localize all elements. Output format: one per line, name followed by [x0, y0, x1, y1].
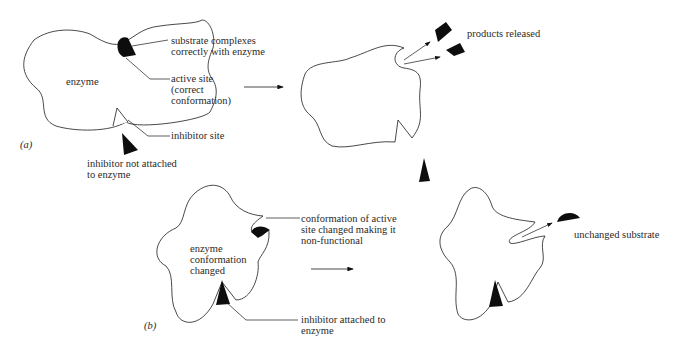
product-1	[435, 22, 452, 42]
callout-active-site-changed: conformation of active site changed maki…	[301, 213, 397, 246]
substrate-b	[251, 226, 270, 238]
enzyme-b-label: enzyme conformation changed	[190, 243, 247, 276]
substrate-unchanged	[557, 213, 580, 222]
inhibitor-moving	[419, 158, 430, 182]
enzyme-a-label: enzyme	[66, 76, 99, 87]
callout-active-site: active site (correct conformation)	[171, 73, 231, 106]
callout-inhibitor-free: inhibitor not attached to enzyme	[87, 158, 177, 180]
panel-b-label: (b)	[144, 320, 156, 331]
product-2	[446, 43, 465, 56]
callout-inhibitor-attached: inhibitor attached to enzyme	[301, 314, 386, 336]
callout-products: products released	[467, 28, 540, 39]
panel-a-label: (a)	[20, 139, 32, 150]
substrate-a	[117, 37, 136, 57]
inhibitor-free	[122, 133, 138, 155]
callout-unchanged-substrate: unchanged substrate	[574, 229, 659, 240]
enzyme-a2-outline	[301, 45, 420, 147]
inhibitor-attached-b2	[489, 280, 503, 307]
callout-substrate: substrate complexes correctly with enzym…	[171, 35, 265, 57]
callout-inhibitor-site: inhibitor site	[171, 130, 224, 141]
